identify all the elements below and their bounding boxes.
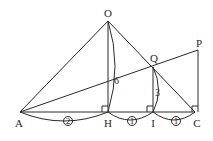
ratio-AH: 2 [66,116,71,126]
label-H: H [104,117,112,129]
label-Q: Q [150,52,158,64]
length-QI: 3 [155,87,160,98]
label-A: A [15,117,23,129]
arc-OH [108,21,115,112]
right-angle-H-icon [102,106,108,112]
right-angle-C-icon [192,106,198,112]
segment-AP [20,50,198,112]
label-O: O [104,7,112,19]
label-P: P [196,37,202,49]
label-I: I [151,117,155,129]
ratio-IC: 1 [174,116,179,126]
right-angle-I-icon [147,106,153,112]
ratio-HI: 1 [130,116,135,126]
segment-OA [20,21,108,112]
geometry-diagram: 6 3 2 1 1 O A H I C P Q [0,0,213,141]
label-C: C [193,117,200,129]
length-OH: 6 [114,75,119,86]
